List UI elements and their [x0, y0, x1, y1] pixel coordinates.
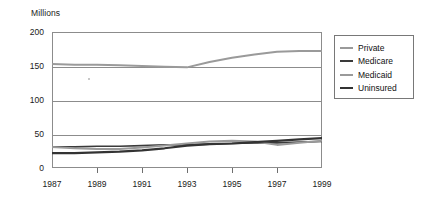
legend-item-label: Medicare: [358, 57, 393, 66]
x-axis-tick-label: 1987: [34, 179, 70, 189]
legend-line-swatch-icon: [340, 74, 353, 76]
legend-line-swatch-icon: [340, 47, 353, 49]
legend-line-swatch-icon: [340, 87, 353, 89]
legend-item-private[interactable]: Private: [340, 41, 413, 55]
chart-figure: Millions 200150100500 198719891991199319…: [0, 0, 423, 210]
x-axis-tick-mark: [277, 168, 278, 173]
legend-item-medicaid[interactable]: Medicaid: [340, 68, 413, 82]
x-axis-tick-mark: [97, 168, 98, 173]
x-axis-tick-label: 1995: [214, 179, 250, 189]
legend: PrivateMedicareMedicaidUninsured: [334, 35, 414, 99]
x-axis-tick-label: 1991: [124, 179, 160, 189]
legend-item-label: Uninsured: [358, 84, 397, 93]
x-axis-tick-label: 1993: [169, 179, 205, 189]
x-axis-tick-mark: [187, 168, 188, 173]
legend-line-swatch-icon: [340, 60, 353, 62]
y-axis-tick-label: 50: [14, 129, 44, 139]
x-axis-tick-label: 1999: [304, 179, 340, 189]
y-axis-tick-label: 150: [14, 61, 44, 71]
y-axis-tick-label: 200: [14, 27, 44, 37]
legend-item-label: Private: [358, 44, 384, 53]
y-axis-tick-label: 100: [14, 95, 44, 105]
x-axis-tick-label: 1997: [259, 179, 295, 189]
series-line-private: [52, 51, 322, 67]
y-axis-tick-label: 0: [14, 163, 44, 173]
y-axis-title: Millions: [31, 8, 60, 18]
x-axis-tick-mark: [142, 168, 143, 173]
x-axis-tick-label: 1989: [79, 179, 115, 189]
legend-item-label: Medicaid: [358, 71, 392, 80]
x-axis-tick-mark: [232, 168, 233, 173]
series-lines-layer: [52, 32, 322, 168]
legend-item-medicare[interactable]: Medicare: [340, 55, 413, 69]
legend-item-uninsured[interactable]: Uninsured: [340, 82, 413, 96]
